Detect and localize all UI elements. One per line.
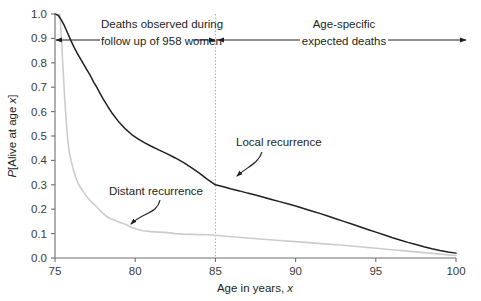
x-tick-label: 100 — [446, 265, 465, 277]
x-tick-label: 90 — [289, 265, 302, 277]
annotation-expected-line1: Age-specific — [313, 18, 376, 30]
chart-canvas: 0.00.10.20.30.40.50.60.70.80.91.0 758085… — [0, 0, 481, 301]
x-tick-label: 80 — [129, 265, 142, 277]
x-axis-title: Age in years, x — [217, 282, 294, 294]
y-tick-label: 0.0 — [31, 252, 47, 264]
y-axis-title: P[Alive at age x] — [6, 94, 18, 177]
x-tick-label: 85 — [209, 265, 222, 277]
local-recurrence-label: Local recurrence — [236, 136, 322, 148]
y-tick-label: 0.3 — [31, 179, 47, 191]
y-tick-label: 0.9 — [31, 32, 47, 44]
y-tick-label: 1.0 — [31, 8, 47, 20]
x-tick-label: 95 — [369, 265, 382, 277]
distant-recurrence-label: Distant recurrence — [109, 185, 203, 197]
figure-container: 0.00.10.20.30.40.50.60.70.80.91.0 758085… — [0, 0, 481, 301]
y-tick-label: 0.5 — [31, 130, 47, 142]
y-tick-label: 0.1 — [31, 228, 47, 240]
annotation-expected-line2: expected deaths — [302, 35, 387, 47]
y-tick-label: 0.4 — [31, 154, 48, 166]
annotation-observed-line1: Deaths observed during — [101, 18, 223, 30]
y-tick-label: 0.2 — [31, 203, 47, 215]
y-tick-label: 0.6 — [31, 106, 47, 118]
plot-background — [0, 0, 481, 301]
y-tick-label: 0.8 — [31, 57, 47, 69]
x-tick-label: 75 — [49, 265, 62, 277]
y-tick-label: 0.7 — [31, 81, 47, 93]
annotation-observed-line2: follow up of 958 women — [101, 35, 222, 47]
